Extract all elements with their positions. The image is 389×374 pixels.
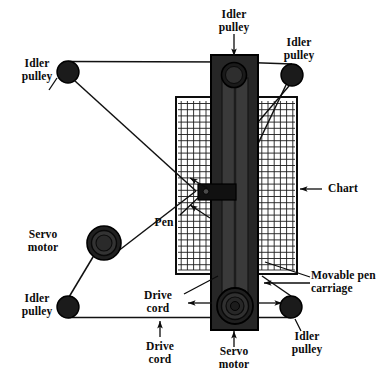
label-idler-pulley-top-left: Idler pulley	[8, 57, 66, 82]
label-pen: Pen	[148, 216, 180, 229]
label-servo-motor-bottom: Servo motor	[207, 345, 261, 370]
idler-pulley-bottom-right[interactable]	[280, 296, 302, 318]
label-drive-cord-middle: Drive cord	[131, 289, 185, 314]
diagram-canvas: Idler pulley Idler pulley Idler pulley I…	[0, 0, 389, 374]
label-chart: Chart	[328, 182, 378, 195]
servo-motor-bottom[interactable]	[217, 288, 253, 324]
label-movable-pen-carriage: Movable pen carriage	[311, 269, 389, 294]
idler-pulley-top-center[interactable]	[222, 63, 247, 88]
pen-tip	[203, 189, 209, 195]
label-idler-pulley-top-right: Idler pulley	[270, 36, 328, 61]
label-drive-cord-bottom: Drive cord	[133, 340, 187, 365]
label-idler-pulley-bottom-right: Idler pulley	[278, 330, 336, 355]
label-servo-motor-left: Servo motor	[16, 228, 70, 253]
servo-motor-left[interactable]	[87, 226, 121, 260]
label-idler-pulley-bottom-left: Idler pulley	[8, 292, 66, 317]
idler-pulley-top-right[interactable]	[281, 64, 303, 86]
label-idler-pulley-top-center: Idler pulley	[205, 8, 263, 33]
